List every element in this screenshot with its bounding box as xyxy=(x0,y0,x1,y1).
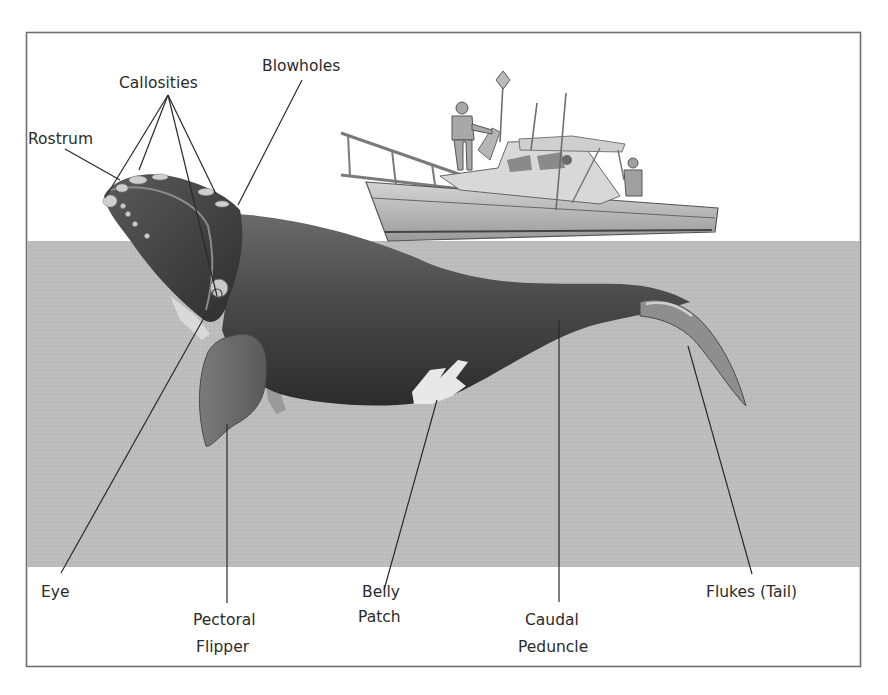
label-rostrum: Rostrum xyxy=(28,130,93,148)
label-belly-line1: Belly xyxy=(362,583,400,601)
label-eye: Eye xyxy=(41,583,70,601)
label-caudal-line1: Caudal xyxy=(525,611,579,629)
diagram-canvas: Callosities Blowholes Rostrum Eye Pector… xyxy=(0,0,888,695)
label-flukes: Flukes (Tail) xyxy=(706,583,797,601)
label-caudal-line2: Peduncle xyxy=(518,638,588,656)
label-pectoral-line1: Pectoral xyxy=(193,611,256,629)
whale-anatomy-diagram: Callosities Blowholes Rostrum Eye Pector… xyxy=(0,0,888,695)
label-callosities: Callosities xyxy=(119,74,198,92)
label-blowholes: Blowholes xyxy=(262,57,340,75)
label-pectoral-line2: Flipper xyxy=(196,638,250,656)
label-belly-line2: Patch xyxy=(358,608,401,626)
